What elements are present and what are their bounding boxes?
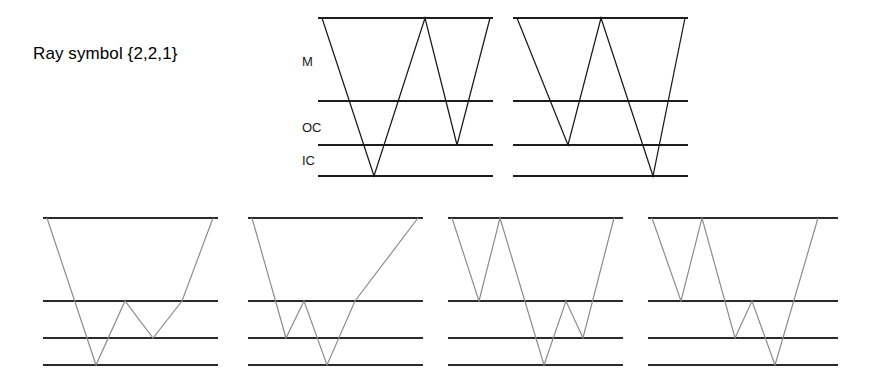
bottom-diagram-3-ray-path [452, 218, 614, 365]
bottom-diagram-3-levels [448, 218, 623, 365]
bottom-diagram-1-ray-path [47, 218, 213, 365]
bottom-diagram-1-levels [43, 218, 218, 365]
bottom-diagram-2-levels [248, 218, 423, 365]
bottom-diagram-2-ray-path [252, 218, 418, 365]
bottom-diagram-4-ray-path [652, 218, 818, 365]
bottom-diagram-4-levels [648, 218, 838, 365]
ray-diagram-figure: Ray symbol {2,2,1} M OC IC [0, 0, 870, 387]
bottom-row-diagram-group [0, 0, 870, 387]
